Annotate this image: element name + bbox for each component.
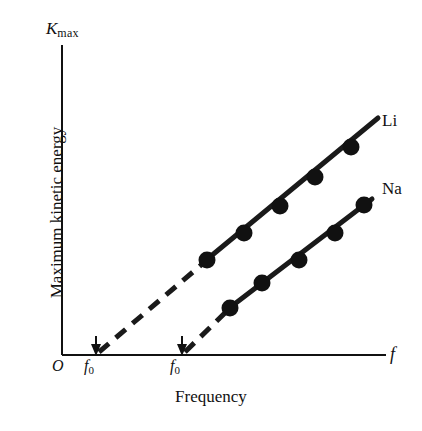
na-data-point (291, 252, 308, 269)
y-axis-symbol-main: K (46, 19, 57, 38)
threshold-na-subscript: 0 (174, 364, 180, 376)
y-axis-symbol: Kmax (46, 20, 79, 39)
na-data-point (254, 275, 271, 292)
li-data-point (236, 225, 253, 242)
threshold-frequency-label-li: f0 (84, 358, 94, 376)
y-axis-title: Maximum kinetic energy (48, 88, 65, 338)
na-data-point (327, 225, 344, 242)
threshold-li-subscript: 0 (88, 364, 94, 376)
series-label-na: Na (382, 180, 402, 197)
na-data-point (356, 197, 373, 214)
x-axis-title: Frequency (0, 388, 422, 405)
li-dashed-extrapolation (99, 260, 207, 352)
li-data-point (307, 169, 324, 186)
na-threshold-arrow (177, 336, 187, 356)
li-threshold-arrow (91, 336, 101, 356)
series-label-li: Li (382, 112, 397, 129)
na-data-point (222, 300, 239, 317)
y-axis-symbol-subscript: max (57, 26, 78, 40)
origin-label: O (52, 358, 64, 374)
threshold-frequency-label-na: f0 (170, 358, 180, 376)
li-data-point (343, 139, 360, 156)
na-dashed-extrapolation (185, 308, 230, 352)
li-data-point (272, 198, 289, 215)
photoelectric-effect-figure: Kmax Maximum kinetic energy Frequency f … (0, 0, 422, 431)
li-data-point (199, 252, 216, 269)
x-axis-symbol: f (390, 345, 395, 363)
